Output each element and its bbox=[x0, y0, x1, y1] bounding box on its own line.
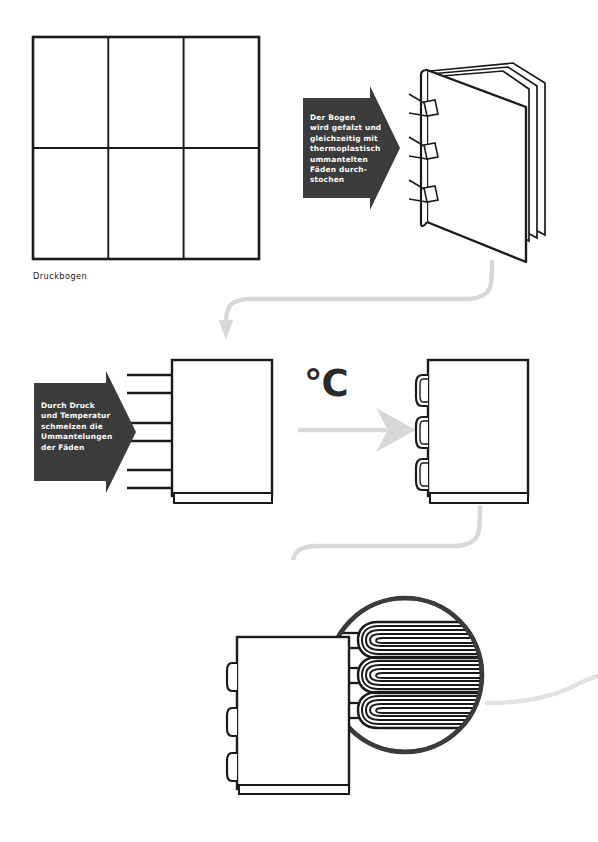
signature-melted-loops-illustration bbox=[416, 360, 528, 503]
arrow-block-step3 bbox=[34, 371, 136, 493]
print-sheet-grid bbox=[33, 37, 259, 259]
stack-front-overlay bbox=[227, 637, 349, 794]
melted-loop-group bbox=[416, 375, 428, 490]
connector-step2-to-step3 bbox=[219, 262, 492, 340]
degrees-celsius-symbol: °C bbox=[304, 365, 348, 402]
process-diagram-svg bbox=[0, 0, 598, 842]
diagram-canvas: Druckbogen Der Bogen wird gefalzt und gl… bbox=[0, 0, 598, 842]
signature-loose-threads-illustration bbox=[127, 360, 272, 503]
print-sheet-caption: Druckbogen bbox=[33, 271, 87, 281]
arrow-block-step2 bbox=[303, 86, 400, 210]
folded-signature-illustration bbox=[409, 63, 545, 262]
